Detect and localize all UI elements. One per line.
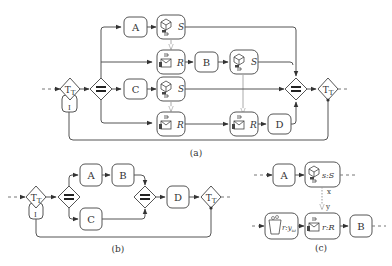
- svg-text:C: C: [132, 84, 140, 95]
- parallel-split-gateway-b[interactable]: [58, 186, 80, 208]
- svg-text:r:R: r:R: [322, 223, 335, 232]
- svg-text:S: S: [178, 22, 184, 32]
- transaction-gateway-end-b[interactable]: TT: [201, 186, 221, 208]
- task-a-c[interactable]: A: [273, 164, 295, 186]
- svg-text:B: B: [203, 57, 210, 68]
- svg-text:S: S: [251, 57, 257, 67]
- svg-text:R: R: [249, 120, 257, 130]
- task-d[interactable]: D: [268, 114, 291, 134]
- svg-text:A: A: [86, 170, 95, 181]
- loop-marker: I: [34, 211, 37, 219]
- send-task-s-2[interactable]: S: [230, 50, 258, 74]
- svg-text:S: S: [178, 84, 184, 94]
- task-a[interactable]: A: [124, 17, 147, 37]
- transaction-gateway-start-b[interactable]: TT I: [26, 186, 46, 219]
- loop-marker: I: [68, 104, 71, 112]
- send-task-s-3[interactable]: S: [157, 77, 185, 101]
- transaction-gateway-end[interactable]: TT: [318, 78, 338, 100]
- edge-label-x: x: [327, 188, 331, 196]
- svg-text:s:S: s:S: [322, 171, 335, 180]
- svg-text:C: C: [87, 214, 95, 225]
- caption-a: (a): [190, 148, 202, 158]
- diagram-a: TT I A S R: [42, 15, 350, 158]
- task-c-b[interactable]: C: [80, 208, 102, 230]
- svg-text:A: A: [131, 22, 140, 33]
- parallel-icon: [96, 86, 106, 88]
- caption-c: (c): [315, 243, 327, 253]
- caption-b: (b): [112, 244, 125, 254]
- diagram-b: TT I A B C: [8, 164, 233, 254]
- task-a-b[interactable]: A: [80, 164, 102, 186]
- svg-text:R: R: [176, 120, 184, 130]
- parallel-join-gateway-b[interactable]: [134, 186, 156, 208]
- bucket-icon: [269, 220, 281, 234]
- task-b-b[interactable]: B: [112, 164, 134, 186]
- task-c[interactable]: C: [124, 79, 147, 99]
- parallel-split-gateway[interactable]: [90, 78, 112, 100]
- svg-text:D: D: [174, 192, 182, 203]
- collect-task-c[interactable]: r:yω: [265, 213, 298, 239]
- parallel-join-gateway[interactable]: [285, 78, 307, 100]
- send-task-s-1[interactable]: S: [157, 15, 185, 39]
- send-task-s-c[interactable]: s:S: [305, 162, 340, 187]
- svg-text:D: D: [275, 119, 283, 130]
- task-b-c[interactable]: B: [350, 215, 372, 237]
- transaction-gateway-start[interactable]: TT I: [60, 78, 80, 112]
- task-d-b[interactable]: D: [167, 186, 189, 208]
- receive-task-r-2[interactable]: R: [157, 112, 185, 136]
- edge-label-y: y: [325, 203, 330, 211]
- receive-task-r-1[interactable]: R: [157, 50, 185, 74]
- bpmn-figure: TT I A S R: [0, 0, 392, 266]
- svg-text:R: R: [176, 58, 184, 68]
- receive-task-r-3[interactable]: R: [230, 112, 258, 136]
- receive-task-r-c[interactable]: r:R: [305, 213, 340, 239]
- svg-text:B: B: [119, 170, 126, 181]
- svg-text:B: B: [357, 221, 364, 232]
- svg-text:A: A: [279, 170, 288, 181]
- parallel-icon: [291, 86, 301, 88]
- task-b[interactable]: B: [195, 52, 218, 72]
- diagram-c: A s:S x y r:yω r:R B: [252, 162, 386, 253]
